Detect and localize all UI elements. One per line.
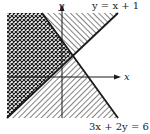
line1-label: y = x + 1 xyxy=(91,0,139,11)
y-axis-label: y xyxy=(58,0,65,11)
x-axis-label: x xyxy=(124,71,130,82)
x-axis-arrow-icon xyxy=(114,75,121,80)
inequality-graph: y x y = x + 1 3x + 2y = 6 xyxy=(0,0,150,134)
line2-label: 3x + 2y = 6 xyxy=(89,121,149,132)
